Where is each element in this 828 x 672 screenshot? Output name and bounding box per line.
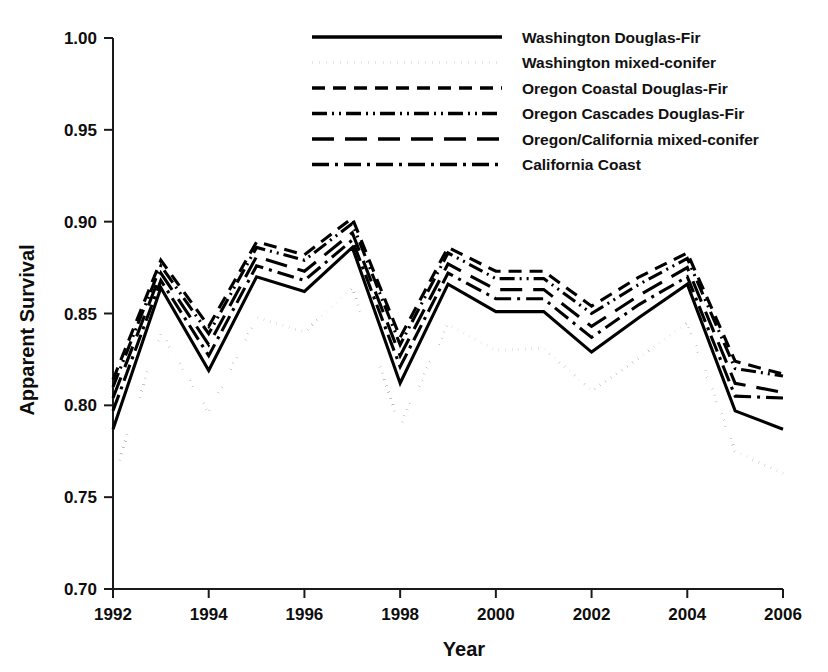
x-tick-label: 1996 [286, 605, 324, 624]
chart-background [0, 0, 828, 672]
x-tick-label: 1998 [381, 605, 419, 624]
y-tick-label: 0.70 [64, 580, 97, 599]
legend-label-6: California Coast [522, 156, 641, 173]
y-tick-label: 0.85 [64, 305, 97, 324]
x-tick-label: 2006 [764, 605, 802, 624]
y-tick-label: 0.95 [64, 121, 97, 140]
x-tick-label: 2002 [573, 605, 611, 624]
legend-label-2: Washington mixed-conifer [522, 54, 716, 71]
survival-line-chart: 0.700.750.800.850.900.951.00 19921994199… [0, 0, 828, 672]
x-tick-label: 2004 [668, 605, 706, 624]
chart-canvas: 0.700.750.800.850.900.951.00 19921994199… [0, 0, 828, 672]
y-tick-label: 0.75 [64, 488, 97, 507]
y-axis-title: Apparent Survival [16, 244, 38, 415]
x-tick-label: 1994 [190, 605, 228, 624]
legend-label-1: Washington Douglas-Fir [522, 29, 701, 46]
legend-label-4: Oregon Cascades Douglas-Fir [522, 105, 744, 122]
x-tick-label: 2000 [477, 605, 515, 624]
legend-label-5: Oregon/California mixed-conifer [522, 131, 759, 148]
y-tick-label: 0.90 [64, 213, 97, 232]
x-tick-label: 1992 [94, 605, 132, 624]
y-tick-label: 1.00 [64, 29, 97, 48]
legend-label-3: Oregon Coastal Douglas-Fir [522, 80, 728, 97]
y-tick-label: 0.80 [64, 396, 97, 415]
x-axis-title: Year [443, 638, 485, 660]
